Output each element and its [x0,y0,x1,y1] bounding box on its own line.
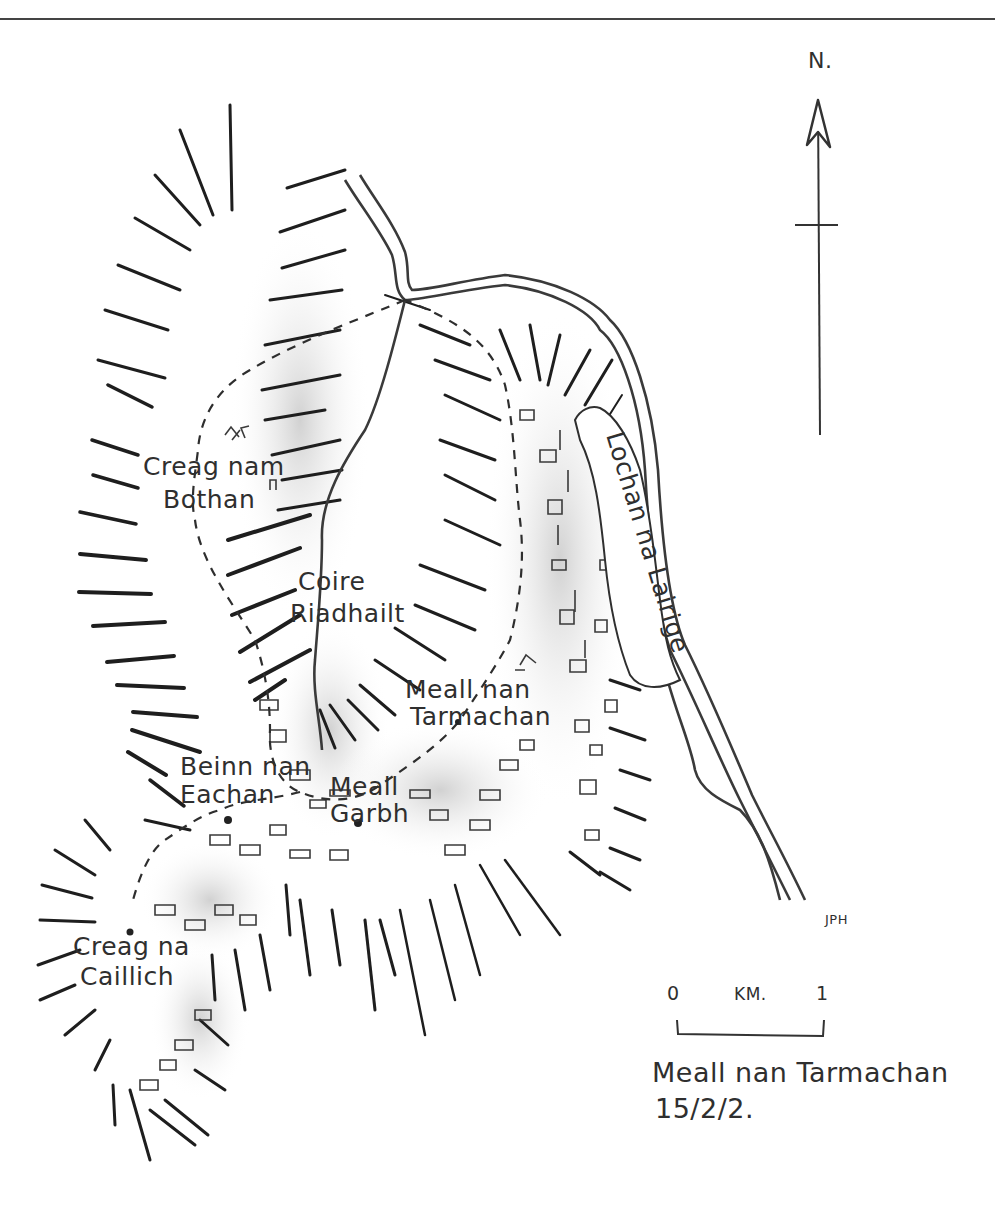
scale-start: 0 [667,982,680,1004]
label-beinn-nan-eachan-2: Eachan [180,780,275,809]
label-meall-garbh-1: Meall [330,772,399,801]
label-beinn-nan-eachan-1: Beinn nan [180,752,311,781]
north-label: N. [808,48,832,73]
hand-drawn-map: Creag nam Bothan Coire Riadhailt Meall n… [0,0,995,1205]
label-meall-nan-tarmachan-1: Meall nan [405,675,531,704]
title-block: Meall nan Tarmachan 15/2/2. [652,1057,949,1124]
label-meall-garbh-2: Garbh [330,799,409,828]
scale-bar: 0 KM. 1 [667,982,829,1036]
label-creag-na-caillich-2: Caillich [80,962,174,991]
label-creag-nam-bothan-1: Creag nam [143,452,285,481]
label-coire-2: Riadhailt [290,599,405,628]
label-meall-nan-tarmachan-2: Tarmachan [409,702,551,731]
label-coire-1: Coire [298,567,365,596]
summit-beinn-nan-eachan [224,816,232,824]
author-initials: JPH [824,912,848,927]
map-title: Meall nan Tarmachan [652,1057,949,1088]
label-creag-na-caillich-1: Creag na [73,932,190,961]
north-arrow: N. [795,48,838,435]
scale-end: 1 [816,982,829,1004]
label-creag-nam-bothan-2: Bothan [163,485,255,514]
map-date: 15/2/2. [655,1093,754,1124]
scale-unit: KM. [734,984,767,1004]
